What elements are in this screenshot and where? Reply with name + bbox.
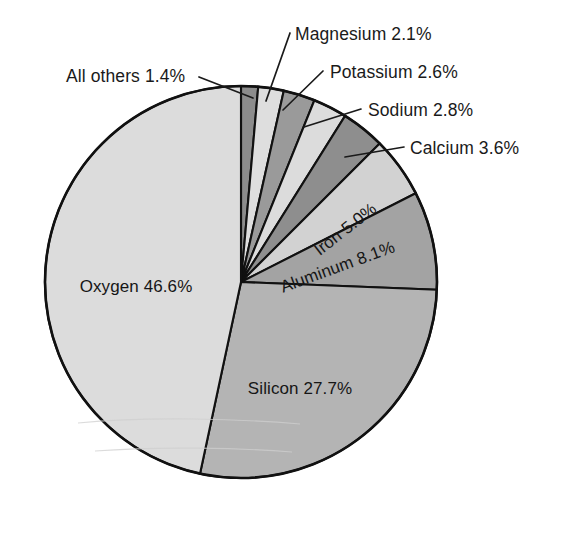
slice-label-oxygen: Oxygen 46.6% [80,277,193,296]
pie-chart-svg: All others 1.4%Magnesium 2.1%Potassium 2… [0,0,570,537]
slice-label-silicon: Silicon 27.7% [248,379,352,398]
slice-label-all-others: All others 1.4% [66,66,185,86]
pie-chart-figure: All others 1.4%Magnesium 2.1%Potassium 2… [0,0,570,537]
slice-label-sodium: Sodium 2.8% [368,100,473,120]
slice-label-potassium: Potassium 2.6% [330,62,458,82]
slice-label-calcium: Calcium 3.6% [410,138,519,158]
slice-label-magnesium: Magnesium 2.1% [295,24,432,44]
